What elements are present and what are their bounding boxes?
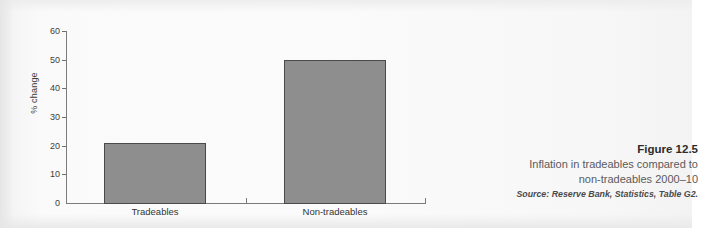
y-tick-label-60: 60 bbox=[38, 26, 60, 36]
figure-title-line-1: Inflation in tradeables compared to bbox=[428, 157, 698, 172]
x-category-label-non-tradeables: Non-tradeables bbox=[265, 206, 405, 217]
y-tick-label-10: 10 bbox=[38, 169, 60, 179]
x-axis-tick-start bbox=[66, 198, 67, 203]
y-tick-label-20: 20 bbox=[38, 141, 60, 151]
y-tick-label-50: 50 bbox=[38, 55, 60, 65]
x-axis-tick-middle bbox=[246, 198, 247, 203]
figure-title-line-2: non-tradeables 2000–10 bbox=[428, 172, 698, 187]
figure-page: % change 60 50 40 30 20 10 0 Tradeables … bbox=[0, 0, 720, 237]
bar-non-tradeables bbox=[284, 60, 386, 204]
y-tick-label-40: 40 bbox=[38, 83, 60, 93]
figure-number: Figure 12.5 bbox=[428, 142, 698, 157]
x-axis-tick-end bbox=[425, 198, 426, 203]
figure-source: Source: Reserve Bank, Statistics, Table … bbox=[428, 189, 698, 199]
y-axis-line bbox=[66, 31, 67, 203]
figure-caption: Figure 12.5 Inflation in tradeables comp… bbox=[428, 142, 698, 199]
bar-chart: % change 60 50 40 30 20 10 0 Tradeables … bbox=[0, 0, 460, 228]
y-tick-label-0: 0 bbox=[38, 198, 60, 208]
x-category-label-tradeables: Tradeables bbox=[85, 206, 225, 217]
bar-tradeables bbox=[104, 143, 206, 204]
y-tick-label-30: 30 bbox=[38, 112, 60, 122]
